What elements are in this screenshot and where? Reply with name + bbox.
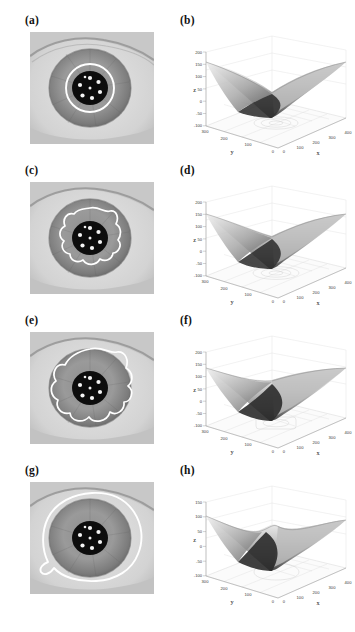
figure-row-1: (c) (d) (0, 164, 355, 314)
figure-root: (a) (b) (0, 0, 355, 632)
figure-row-0: (a) (b) (0, 14, 355, 164)
z-tick-5: -50 (196, 111, 203, 116)
z-tick-0: 200 (195, 350, 203, 355)
z-tick-1: 150 (195, 362, 203, 367)
z-axis-label: z (193, 236, 196, 243)
surface-plot-f: 200 150 100 50 0 -50 -100 z 300 200 100 … (160, 322, 352, 458)
panel-label-a: (a) (25, 14, 39, 26)
y-axis-label: y (230, 448, 234, 455)
y-tick-0: 0 (272, 599, 275, 604)
eye-photo (30, 482, 154, 594)
z-axis-label: z (193, 536, 196, 543)
z-tick-4: 0 (200, 249, 203, 254)
panel-label-c: (c) (25, 164, 38, 176)
z-axis-label: z (193, 86, 196, 93)
y-tick-2: 200 (221, 586, 229, 591)
x-tick-3: 300 (329, 435, 337, 440)
z-tick-3: 50 (197, 237, 202, 242)
eye-photo (30, 332, 154, 444)
z-tick-5: -50 (196, 261, 203, 266)
surface-plot-d: 200 150 100 50 0 -50 -100 z 300 200 100 … (160, 172, 352, 308)
x-tick-0: 0 (283, 149, 286, 154)
z-tick-1: 150 (195, 212, 203, 217)
figure-row-3: (g) (h) (0, 464, 355, 614)
x-tick-2: 200 (313, 140, 321, 145)
x-tick-0: 0 (283, 449, 286, 454)
y-tick-0: 0 (272, 449, 275, 454)
eye-image-a (30, 32, 154, 144)
z-tick-0: 200 (195, 50, 203, 55)
y-tick-1: 100 (245, 142, 253, 147)
y-tick-0: 0 (272, 299, 275, 304)
z-tick-4: -50 (196, 559, 203, 564)
x-tick-4: 400 (345, 280, 352, 285)
x-tick-2: 200 (313, 590, 321, 595)
z-tick-4: 0 (200, 399, 203, 404)
y-tick-2: 200 (221, 286, 229, 291)
figure-row-2: (e) (f) (0, 314, 355, 464)
z-tick-3: 0 (200, 544, 203, 549)
y-tick-0: 0 (272, 149, 275, 154)
x-axis-label: x (316, 599, 320, 606)
y-axis-label: y (230, 598, 234, 605)
y-tick-1: 100 (245, 442, 253, 447)
x-axis-label: x (316, 449, 320, 456)
z-tick-4: 0 (200, 99, 203, 104)
z-tick-2: 100 (195, 224, 203, 229)
eye-image-g (30, 482, 154, 594)
x-tick-3: 300 (329, 585, 337, 590)
x-tick-2: 200 (313, 440, 321, 445)
x-tick-2: 200 (313, 290, 321, 295)
y-tick-2: 200 (221, 136, 229, 141)
z-tick-2: 100 (195, 74, 203, 79)
z-tick-2: 100 (195, 374, 203, 379)
z-tick-1: 150 (195, 62, 203, 67)
x-axis-label: x (316, 299, 320, 306)
x-axis-label: x (316, 149, 320, 156)
x-tick-1: 100 (297, 295, 305, 300)
z-tick-3: 50 (197, 87, 202, 92)
z-axis-label: z (193, 386, 196, 393)
y-axis-label: y (230, 148, 234, 155)
x-tick-1: 100 (297, 145, 305, 150)
z-tick-0: 200 (195, 200, 203, 205)
z-tick-0: 150 (195, 500, 203, 505)
eye-image-e (30, 332, 154, 444)
y-tick-1: 100 (245, 592, 253, 597)
z-tick-3: 50 (197, 387, 202, 392)
eye-photo (30, 182, 154, 294)
y-axis-label: y (230, 298, 234, 305)
x-tick-4: 400 (345, 130, 352, 135)
surface-plot-h: 150 100 50 0 -50 -100 z 300 200 100 0 y … (160, 472, 352, 608)
x-tick-0: 0 (283, 299, 286, 304)
eye-image-c (30, 182, 154, 294)
x-tick-4: 400 (345, 430, 352, 435)
z-tick-1: 100 (195, 514, 203, 519)
z-tick-5: -50 (196, 411, 203, 416)
panel-label-g: (g) (25, 464, 39, 476)
z-tick-2: 50 (197, 529, 202, 534)
x-tick-3: 300 (329, 285, 337, 290)
x-tick-4: 400 (345, 580, 352, 585)
y-tick-3: 300 (202, 579, 210, 584)
eye-photo (30, 32, 154, 144)
y-tick-3: 300 (202, 129, 210, 134)
x-tick-3: 300 (329, 135, 337, 140)
y-tick-1: 100 (245, 292, 253, 297)
y-tick-3: 300 (202, 429, 210, 434)
panel-label-e: (e) (25, 314, 38, 326)
y-tick-3: 300 (202, 279, 210, 284)
y-tick-2: 200 (221, 436, 229, 441)
surface-plot-b: 200 150 100 50 0 -50 -100 z 300 200 100 … (160, 22, 352, 158)
x-tick-1: 100 (297, 595, 305, 600)
x-tick-1: 100 (297, 445, 305, 450)
x-tick-0: 0 (283, 599, 286, 604)
